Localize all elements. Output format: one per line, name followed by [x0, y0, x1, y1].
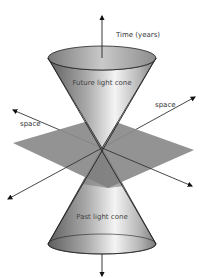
future-cone-label: Future light cone: [72, 79, 131, 87]
time-axis-label: Time (years): [115, 31, 160, 39]
past-cone-label: Past light cone: [76, 213, 127, 221]
space-left-label: space: [20, 120, 41, 128]
light-cone-diagram: Time (years) Future light cone Past ligh…: [0, 0, 209, 278]
space-right-label: space: [155, 101, 176, 109]
